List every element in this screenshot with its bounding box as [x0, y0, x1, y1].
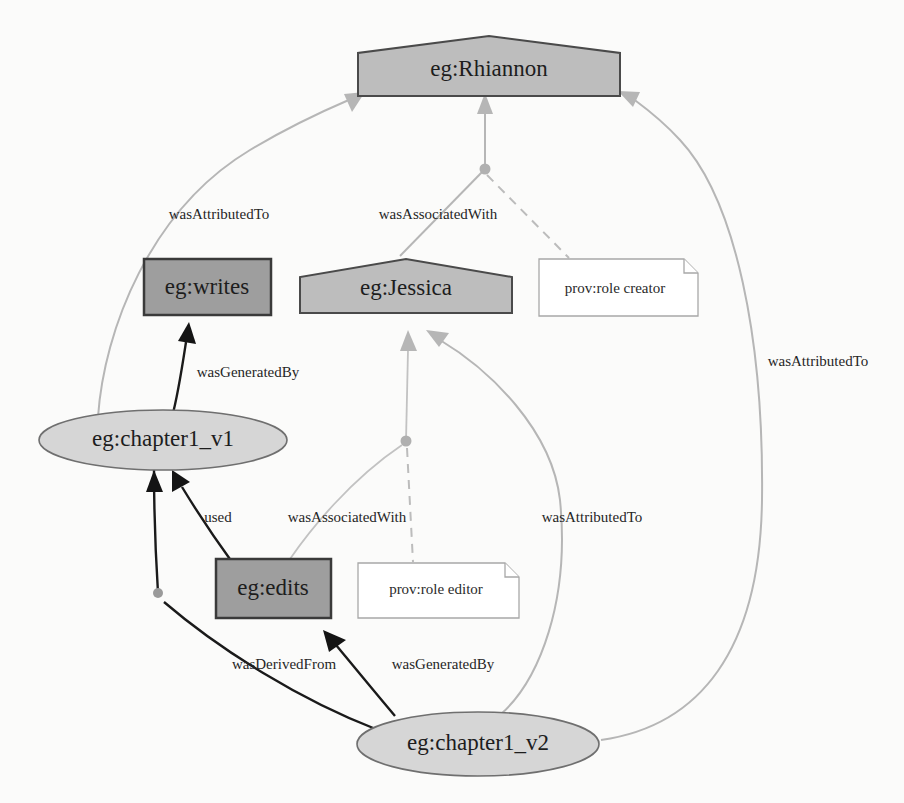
edge-was-associated-with-writes-rhiannon: [400, 93, 569, 258]
edge-was-generated-by-v1-writes: [172, 322, 196, 417]
node-label-rhiannon: eg:Rhiannon: [430, 56, 548, 81]
node-label-writes: eg:writes: [165, 274, 249, 299]
node-note-role-editor[interactable]: prov:role editor: [358, 563, 519, 618]
edge-label-was-generated-by-v2-edits: wasGeneratedBy: [392, 656, 495, 672]
edge-label-was-derived-from-v2-v1: wasDerivedFrom: [232, 656, 336, 672]
node-activity-edits[interactable]: eg:edits: [216, 559, 331, 618]
node-label-role-editor: prov:role editor: [389, 581, 483, 597]
provenance-graph: wasAttributedTo wasAssociatedWith wasAtt…: [0, 0, 904, 803]
node-activity-writes[interactable]: eg:writes: [144, 259, 271, 315]
edge-was-associated-with-edits-jessica: [290, 330, 417, 562]
node-entity-chapter1-v2[interactable]: eg:chapter1_v2: [357, 712, 599, 776]
node-label-edits: eg:edits: [237, 575, 309, 600]
edge-label-was-attributed-to-v1-rhiannon: wasAttributedTo: [169, 206, 270, 222]
node-agent-jessica[interactable]: eg:Jessica: [300, 259, 512, 313]
node-label-chapter1-v1: eg:chapter1_v1: [92, 426, 234, 451]
edge-label-was-generated-by-v1-writes: wasGeneratedBy: [197, 364, 300, 380]
edge-label-was-attributed-to-v2-rhiannon: wasAttributedTo: [768, 353, 869, 369]
edge-label-was-associated-with-writes-rhiannon: wasAssociatedWith: [379, 206, 498, 222]
node-entity-chapter1-v1[interactable]: eg:chapter1_v1: [39, 410, 287, 470]
node-label-jessica: eg:Jessica: [360, 275, 452, 300]
edge-label-used-edits-v1: used: [204, 509, 232, 525]
edge-was-attributed-to-v2-rhiannon: [601, 91, 762, 740]
node-note-role-creator[interactable]: prov:role creator: [539, 259, 698, 316]
node-label-chapter1-v2: eg:chapter1_v2: [407, 730, 549, 755]
node-label-role-creator: prov:role creator: [565, 280, 665, 296]
edge-label-was-attributed-to-v2-jessica: wasAttributedTo: [542, 509, 643, 525]
node-agent-rhiannon[interactable]: eg:Rhiannon: [358, 36, 620, 96]
edge-was-generated-by-v2-edits: [323, 630, 395, 716]
edge-label-was-associated-with-edits-jessica: wasAssociatedWith: [288, 509, 407, 525]
diagram-canvas: wasAttributedTo wasAssociatedWith wasAtt…: [0, 0, 904, 803]
